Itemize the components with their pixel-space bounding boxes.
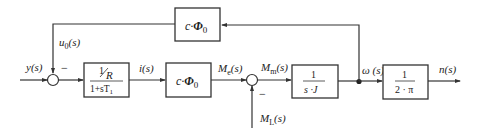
current-label: i(s) — [139, 62, 154, 75]
input-label: y(s) — [25, 61, 43, 74]
inertia-block: 1 s ·J — [292, 65, 338, 98]
back-emf-block: c·Φ0 — [175, 8, 220, 41]
block1-numerator-r: R — [105, 69, 113, 81]
sum-junction-1 — [48, 75, 59, 86]
sum1-minus-sign: − — [61, 61, 68, 75]
load-torque-label: ML(s) — [259, 112, 286, 127]
speed-conversion-block: 1 2 · π — [383, 65, 428, 99]
block-diagram: y(s) − 1 R 1+sT1 i(s) c·Φ0 Me(s) − ML(s)… — [0, 0, 483, 137]
block4-numerator: 1 — [402, 69, 407, 80]
output-label: n(s) — [439, 63, 456, 76]
block3-denominator: s ·J — [304, 84, 318, 95]
sum-junction-2 — [247, 75, 258, 86]
omega-label: ω (s) — [362, 64, 384, 77]
block4-denominator: 2 · π — [395, 84, 413, 95]
block3-numerator: 1 — [311, 69, 316, 80]
sum2-minus-sign: − — [259, 87, 266, 101]
electric-torque-label: Me(s) — [217, 62, 243, 77]
block1-numerator-one: 1 — [99, 65, 104, 76]
feedback-label: u0(s) — [59, 36, 80, 51]
motor-torque-label: Mm(s) — [260, 61, 288, 76]
torque-constant-block: c·Φ0 — [166, 63, 211, 97]
electrical-transfer-block: 1 R 1+sT1 — [84, 63, 129, 97]
